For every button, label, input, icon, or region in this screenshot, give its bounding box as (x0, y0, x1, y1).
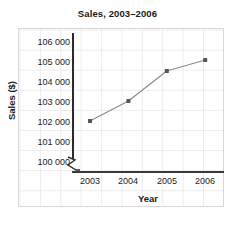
y-axis-tick-labels: 106 000 105 000 104 000 103 000 102 000 … (16, 0, 70, 228)
x-tick-label: 2004 (108, 176, 148, 186)
y-tick-label: 105 000 (24, 57, 70, 67)
x-tick-label: 2003 (70, 176, 110, 186)
y-tick-label: 100 000 (24, 157, 70, 167)
x-axis-line (72, 171, 224, 173)
y-axis-line (72, 33, 74, 159)
x-tick-label: 2006 (185, 176, 225, 186)
y-tick-label: 102 000 (24, 117, 70, 127)
y-tick-label: 106 000 (24, 37, 70, 47)
y-axis-title: Sales ($) (6, 71, 17, 131)
x-tick-label: 2005 (147, 176, 187, 186)
y-tick-label: 104 000 (24, 77, 70, 87)
y-tick-label: 101 000 (24, 137, 70, 147)
y-tick-label: 103 000 (24, 97, 70, 107)
y-axis-break-icon (66, 156, 80, 173)
x-axis-title: Year (72, 193, 224, 204)
